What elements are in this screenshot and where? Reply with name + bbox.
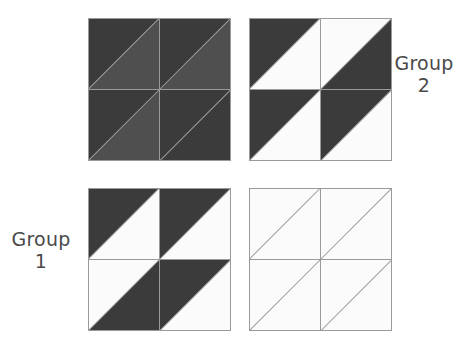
panel-canvas [249, 18, 392, 161]
group-2-label: Group 2 [388, 52, 460, 97]
shading-panel-bottom-left [88, 188, 231, 331]
panel-canvas [88, 188, 231, 331]
shading-panel-bottom-right [249, 188, 392, 331]
panel-canvas [249, 188, 392, 331]
group-1-label: Group 1 [2, 228, 80, 273]
shading-panel-top-right [249, 18, 392, 161]
stimulus-figure: Group 2 Group 1 [0, 0, 462, 352]
panel-canvas [88, 18, 231, 161]
shading-panel-top-left [88, 18, 231, 161]
